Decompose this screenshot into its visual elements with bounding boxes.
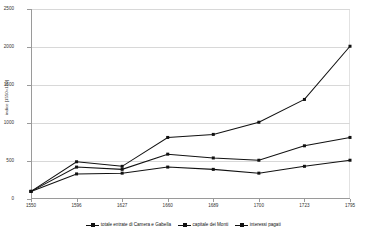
y-axis-tick-label: 2000 (0, 45, 14, 50)
legend-marker-icon (178, 223, 191, 228)
y-axis-tick-mark (27, 123, 31, 124)
x-axis-tick-mark (304, 199, 305, 202)
y-axis-label: indice [1550=100] (4, 68, 9, 128)
x-axis-tick-mark (122, 199, 123, 202)
x-axis-tick-label: 1550 (11, 203, 51, 208)
legend-item[interactable]: totale entrate di Camera e Gabella (86, 222, 171, 228)
chart-legend: totale entrate di Camera e Gabellacapita… (0, 222, 367, 228)
gridline (32, 47, 350, 48)
legend-marker-icon (235, 223, 248, 228)
x-axis-tick-mark (31, 199, 32, 202)
x-axis-tick-label: 1795 (330, 203, 367, 208)
x-axis-tick-label: 1689 (193, 203, 233, 208)
legend-label: capitale dei Monti (193, 222, 229, 228)
x-axis-tick-mark (168, 199, 169, 202)
x-axis-tick-label: 1700 (239, 203, 279, 208)
gridline (32, 123, 350, 124)
plot-area (31, 9, 350, 199)
x-axis-tick-mark (213, 199, 214, 202)
x-axis-tick-mark (77, 199, 78, 202)
gridline (32, 161, 350, 162)
gridline (32, 9, 350, 10)
legend-item[interactable]: interessi pagati (235, 222, 280, 228)
legend-label: totale entrate di Camera e Gabella (101, 222, 171, 228)
plot-right-rule (349, 9, 350, 198)
y-axis-tick-label: 0 (0, 197, 14, 202)
legend-marker-icon (86, 223, 99, 228)
chart-page: 05001000150020002500 indice [1550=100] 1… (0, 0, 367, 234)
x-axis-tick-mark (350, 199, 351, 202)
y-axis-tick-label: 2500 (0, 7, 14, 12)
x-axis-tick-label: 1627 (102, 203, 142, 208)
x-axis-tick-label: 1596 (57, 203, 97, 208)
x-axis-tick-label: 1723 (284, 203, 324, 208)
y-axis-tick-mark (27, 85, 31, 86)
legend-item[interactable]: capitale dei Monti (178, 222, 228, 228)
y-axis-tick-mark (27, 9, 31, 10)
x-axis-tick-mark (259, 199, 260, 202)
y-axis-tick-label: 500 (0, 159, 14, 164)
x-axis-tick-label: 1660 (148, 203, 188, 208)
legend-label: interessi pagati (250, 222, 281, 228)
gridline (32, 85, 350, 86)
y-axis-tick-mark (27, 161, 31, 162)
clipped-title (0, 0, 367, 7)
y-axis-tick-mark (27, 47, 31, 48)
